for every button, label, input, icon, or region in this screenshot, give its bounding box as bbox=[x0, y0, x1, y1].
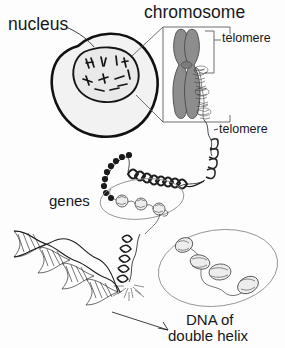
chromosome-label: chromosome bbox=[144, 2, 245, 22]
telomere-bottom-label: telomere bbox=[219, 122, 268, 136]
histone-detail-oval bbox=[153, 222, 282, 314]
telomere-top-label: telomere bbox=[222, 31, 271, 45]
genes-label: genes bbox=[49, 192, 90, 209]
dna-caption-line1: DNA of bbox=[186, 311, 234, 328]
dna-caption-line2: double helix bbox=[168, 327, 249, 344]
solenoid-coil bbox=[206, 139, 218, 179]
dna-caption-arrow bbox=[112, 312, 168, 330]
nucleus-label: nucleus bbox=[8, 14, 69, 34]
dna-packaging-diagram: nucleus chromosome telomere telomere gen… bbox=[0, 0, 285, 348]
dna-double-helix bbox=[14, 231, 120, 305]
nucleosome-beads bbox=[101, 152, 132, 201]
telomere-bracket bbox=[205, 31, 221, 73]
magnifier-link bbox=[145, 214, 160, 234]
x-shaped-chromosome bbox=[173, 29, 200, 118]
